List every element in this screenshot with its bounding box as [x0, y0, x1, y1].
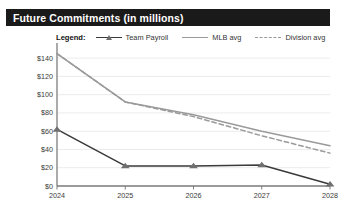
y-axis-tick-label: $120 — [20, 72, 53, 81]
y-axis-tick-label: $0 — [20, 182, 53, 191]
x-axis-tick-label: 2025 — [108, 191, 142, 200]
x-axis-tick-label: 2027 — [245, 191, 279, 200]
y-axis-tick-label: $60 — [20, 127, 53, 136]
y-axis-tick-label: $20 — [20, 163, 53, 172]
x-axis-tick-label: 2026 — [177, 191, 211, 200]
x-axis-tick-label: 2024 — [40, 191, 74, 200]
y-axis-tick-label: $40 — [20, 145, 53, 154]
y-axis-tick-label: $80 — [20, 108, 53, 117]
x-axis-tick-label: 2028 — [313, 191, 343, 200]
series-line-division-avg — [57, 54, 330, 154]
data-point-marker — [53, 126, 62, 131]
y-axis-tick-label: $140 — [20, 54, 53, 63]
y-axis-tick-label: $100 — [20, 90, 53, 99]
series-line-mlb-avg — [57, 54, 330, 146]
